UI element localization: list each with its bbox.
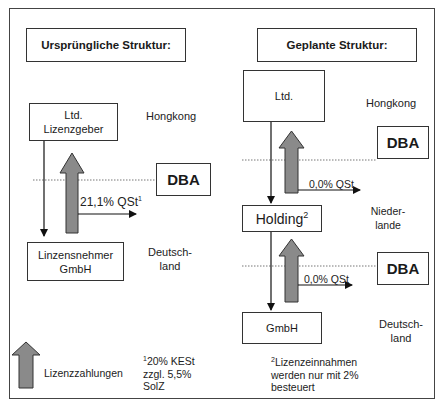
footnote-1: 120% KESt zzgl. 5,5% SolZ xyxy=(143,355,195,393)
holding-name: Holding xyxy=(256,211,303,227)
dba-label-right-2: DBA xyxy=(387,262,420,276)
licensee-country-line2: land xyxy=(148,259,192,273)
footnote-2: 2Lizenzeinnahmen werden nur mit 2% beste… xyxy=(271,356,359,394)
ltd-country-right: Hongkong xyxy=(366,96,416,110)
dba-box-right-2: DBA xyxy=(377,252,429,285)
planned-structure-title-text: Geplante Struktur: xyxy=(287,38,388,52)
licensee-country: Deutsch- land xyxy=(148,245,192,273)
gmbh-country-line1: Deutsch- xyxy=(379,317,423,331)
licensee-name: Linzensnehmer xyxy=(38,248,113,262)
tax-label-right-2: 0,0% QSt xyxy=(304,272,349,286)
licensor-role: Lizenzgeber xyxy=(44,122,104,136)
licensor-name: Ltd. xyxy=(64,108,82,122)
footnote-1-line2: zzgl. 5,5% xyxy=(143,368,195,381)
original-structure-title: Ursprüngliche Struktur: xyxy=(26,28,186,62)
legend-arrow-icon xyxy=(12,342,40,388)
footnote-2-line2: werden nur mit 2% xyxy=(271,369,359,382)
holding-country: Nieder- lande xyxy=(368,204,408,232)
licensor-country: Hongkong xyxy=(146,109,196,123)
footnote-mark-1: 1 xyxy=(138,195,142,202)
gmbh-label-right: GmbH xyxy=(266,321,298,335)
legend-arrow-label: Lizenzzahlungen xyxy=(44,366,123,380)
holding-country-line2: lande xyxy=(368,218,408,232)
dba-box-left: DBA xyxy=(156,163,211,196)
footnote-mark-2: 2 xyxy=(303,210,308,220)
gmbh-country-right: Deutsch- land xyxy=(379,317,423,345)
gmbh-country-line2: land xyxy=(379,331,423,345)
footnote-2-line1: 2Lizenzeinnahmen xyxy=(271,356,359,369)
footnote-1-line3: SolZ xyxy=(143,380,195,393)
licensee-type: GmbH xyxy=(60,262,92,276)
tax-rate-left: 21,1% QSt xyxy=(80,195,138,209)
licensee-box: Linzensnehmer GmbH xyxy=(27,242,124,281)
ltd-box-right: Ltd. xyxy=(243,70,325,122)
dba-box-right-1: DBA xyxy=(377,126,429,159)
gmbh-box-right: GmbH xyxy=(242,312,322,344)
dba-label-right-1: DBA xyxy=(387,136,420,150)
footnote-2-line3: besteuert xyxy=(271,381,359,394)
planned-structure-title: Geplante Struktur: xyxy=(257,28,417,62)
tax-label-right-1: 0,0% QSt xyxy=(309,177,354,191)
licensor-box: Ltd. Lizenzgeber xyxy=(29,103,118,141)
footnote-1-line1: 120% KESt xyxy=(143,355,195,368)
license-payment-arrow-left xyxy=(60,153,84,233)
holding-label: Holding2 xyxy=(256,212,309,226)
licensee-country-line1: Deutsch- xyxy=(148,245,192,259)
original-structure-title-text: Ursprüngliche Struktur: xyxy=(41,38,171,52)
tax-label-left: 21,1% QSt1 xyxy=(80,195,142,209)
ltd-label-right: Ltd. xyxy=(275,89,293,103)
holding-box: Holding2 xyxy=(242,205,322,232)
dba-label-left: DBA xyxy=(167,173,200,187)
footnote-1-text1: 20% KESt xyxy=(147,355,195,367)
footnote-2-text1: Lizenzeinnahmen xyxy=(275,356,357,368)
license-payment-arrow-right-1 xyxy=(279,131,304,193)
holding-country-line1: Nieder- xyxy=(368,204,408,218)
license-payment-arrow-right-2 xyxy=(279,239,304,302)
